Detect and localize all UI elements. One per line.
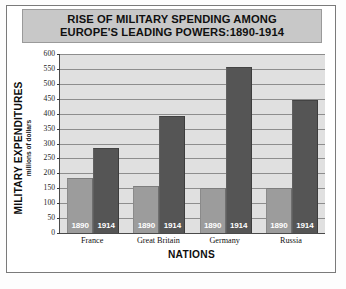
bar-year-label: 1914: [293, 221, 317, 230]
y-axis-tick-mark: [57, 69, 60, 70]
bar-year-label: 1890: [68, 221, 92, 230]
bar-france-1914: 1914: [93, 148, 119, 233]
y-axis-tick-label: 350: [29, 124, 55, 133]
bar-year-label: 1890: [201, 221, 225, 230]
y-axis-tick-mark: [57, 54, 60, 55]
bar-france-1890: 1890: [67, 178, 93, 233]
x-axis-category-label: France: [59, 236, 125, 245]
y-axis-tick-label: 300: [29, 139, 55, 148]
y-axis-tick-mark: [57, 99, 60, 100]
y-axis-tick-mark: [57, 218, 60, 219]
chart-title-line2: EUROPE'S LEADING POWERS:1890-1914: [60, 26, 284, 40]
x-axis-title: NATIONS: [59, 249, 324, 260]
y-axis-tick-mark: [57, 144, 60, 145]
bar-germany-1890: 1890: [200, 188, 226, 233]
y-axis-tick-label: 100: [29, 198, 55, 207]
y-axis-tick-label: 0: [29, 228, 55, 237]
bar-russia-1914: 1914: [292, 100, 318, 233]
y-axis-tick-label: 50: [29, 213, 55, 222]
gridline: [60, 114, 325, 115]
y-axis-title-main: MILITARY EXPENDITURES: [14, 81, 24, 214]
bar-great-britain-1890: 1890: [133, 186, 159, 233]
bar-year-label: 1914: [160, 221, 184, 230]
y-axis-tick-label: 600: [29, 49, 55, 58]
y-axis-tick-label: 150: [29, 183, 55, 192]
gridline: [60, 129, 325, 130]
x-axis-category-label: Germany: [192, 236, 258, 245]
y-axis-tick-mark: [57, 173, 60, 174]
y-axis-tick-label: 400: [29, 109, 55, 118]
y-axis-tick-label: 500: [29, 79, 55, 88]
y-axis-tick-label: 250: [29, 153, 55, 162]
y-axis-tick-mark: [57, 114, 60, 115]
y-axis-tick-mark: [57, 158, 60, 159]
bar-year-label: 1914: [227, 221, 251, 230]
plot-area: 18901914189019141890191418901914: [59, 54, 325, 234]
x-axis-category-label: Russia: [258, 236, 324, 245]
x-axis-category-label: Great Britain: [125, 236, 191, 245]
gridline: [60, 144, 325, 145]
bar-year-label: 1890: [134, 221, 158, 230]
chart-figure: RISE OF MILITARY SPENDING AMONG EUROPE'S…: [0, 0, 346, 289]
gridline: [60, 69, 325, 70]
bar-germany-1914: 1914: [226, 67, 252, 233]
y-axis-tick-label: 450: [29, 94, 55, 103]
y-axis-tick-label: 550: [29, 64, 55, 73]
gridline: [60, 54, 325, 55]
bar-year-label: 1914: [94, 221, 118, 230]
y-axis-tick-label: 200: [29, 168, 55, 177]
y-axis-tick-mark: [57, 203, 60, 204]
bar-russia-1890: 1890: [266, 188, 292, 233]
chart-title-line1: RISE OF MILITARY SPENDING AMONG: [67, 13, 276, 27]
y-axis-tick-mark: [57, 188, 60, 189]
y-axis-tick-mark: [57, 233, 60, 234]
gridline: [60, 99, 325, 100]
y-axis-tick-mark: [57, 84, 60, 85]
y-axis-tick-mark: [57, 129, 60, 130]
chart-title: RISE OF MILITARY SPENDING AMONG EUROPE'S…: [22, 9, 322, 43]
bar-great-britain-1914: 1914: [159, 116, 185, 233]
bar-year-label: 1890: [267, 221, 291, 230]
gridline: [60, 84, 325, 85]
